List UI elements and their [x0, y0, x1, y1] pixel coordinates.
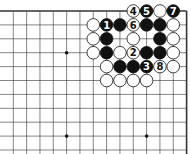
white-stone [87, 19, 100, 32]
black-stone [154, 33, 167, 46]
white-stone [100, 60, 113, 73]
black-stone [114, 60, 127, 73]
star-point [145, 134, 149, 138]
white-stone [167, 19, 180, 32]
black-stone [114, 19, 127, 32]
go-board-diagram: 45716238 [0, 0, 191, 154]
black-stone: 3 [140, 60, 153, 73]
black-stone [100, 33, 113, 46]
black-stone [127, 60, 140, 73]
white-stone: 2 [127, 46, 140, 59]
move-number: 6 [130, 20, 137, 31]
move-number: 7 [170, 6, 177, 17]
move-number: 8 [156, 61, 163, 72]
black-stone: 7 [167, 5, 180, 18]
black-stone: 5 [140, 5, 153, 18]
star-point [65, 51, 69, 55]
white-stone [167, 33, 180, 46]
star-point [65, 134, 69, 138]
black-stone [100, 46, 113, 59]
black-stone: 1 [100, 19, 113, 32]
white-stone [127, 33, 140, 46]
black-stone [154, 46, 167, 59]
white-stone [114, 46, 127, 59]
white-stone [87, 33, 100, 46]
move-number: 4 [130, 6, 137, 17]
white-stone [167, 46, 180, 59]
move-number: 3 [143, 61, 150, 72]
white-stone [100, 74, 113, 87]
white-stone: 4 [127, 5, 140, 18]
black-stone [140, 46, 153, 59]
move-number: 1 [103, 20, 110, 31]
white-stone [154, 5, 167, 18]
white-stone: 8 [154, 60, 167, 73]
white-stone [140, 74, 153, 87]
white-stone [127, 74, 140, 87]
black-stone [140, 19, 153, 32]
black-stone [154, 19, 167, 32]
move-number: 2 [130, 47, 137, 58]
white-stone: 6 [127, 19, 140, 32]
white-stone [87, 46, 100, 59]
white-stone [114, 74, 127, 87]
white-stone [167, 60, 180, 73]
move-number: 5 [143, 6, 150, 17]
